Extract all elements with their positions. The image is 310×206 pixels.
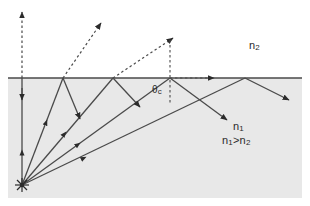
label-n1: n1 (233, 120, 244, 133)
light-source-starburst (15, 178, 29, 192)
inequality-sub-second: 2 (246, 138, 251, 147)
label-n2-subscript: 2 (255, 43, 260, 52)
label-n2: n2 (249, 39, 260, 52)
theta-subscript: c (158, 87, 162, 96)
optics-diagram: n2 n1 n1>n2 θc (0, 0, 310, 206)
refracted-ray-medium-angle (113, 38, 173, 78)
inequality-operator: >n (233, 134, 246, 146)
refracted-rays-group (22, 12, 214, 78)
label-n1-subscript: 1 (239, 124, 244, 133)
refracted-ray-small-angle (63, 23, 101, 78)
label-refractive-index-inequality: n1>n2 (222, 134, 251, 147)
diagram-canvas (0, 0, 310, 206)
label-critical-angle: θc (152, 84, 162, 96)
